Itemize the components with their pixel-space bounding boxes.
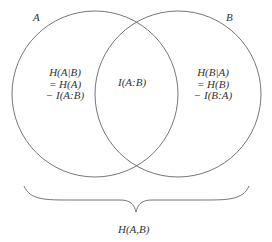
region-a-line-3: − I(A:B) — [40, 90, 90, 102]
venn-graphics — [0, 0, 272, 242]
venn-diagram: A B H(A|B) = H(A) − I(A:B) I(A:B) H(B|A)… — [0, 0, 272, 242]
region-b-line-3: − I(B:A) — [188, 90, 238, 102]
set-label-a: A — [33, 12, 40, 24]
region-a-only: H(A|B) = H(A) − I(A:B) — [40, 67, 90, 102]
region-b-line-1: H(B|A) — [188, 67, 238, 79]
set-label-b: B — [226, 12, 233, 24]
region-a-line-1: H(A|B) — [40, 67, 90, 79]
region-b-only: H(B|A) = H(B) − I(B:A) — [188, 67, 238, 102]
region-intersection: I(A:B) — [118, 77, 146, 89]
brace — [24, 186, 249, 212]
brace-label: H(A,B) — [118, 224, 149, 236]
